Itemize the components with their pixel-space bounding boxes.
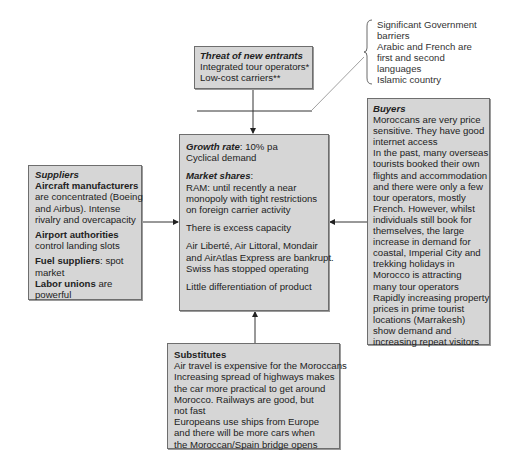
buyers-line: tourists booked their own <box>373 158 484 169</box>
buyers-line: Morocco is attracting <box>373 269 484 280</box>
barrier-line: Arabic and French are <box>377 41 477 52</box>
buyers-line: Rapidly increasing property <box>373 292 484 303</box>
buyers-line: French. However, whilst <box>373 203 484 214</box>
fuel-label: Fuel suppliers <box>35 255 100 266</box>
barrier-line: languages <box>377 63 477 74</box>
buyers-line: internet access <box>373 136 484 147</box>
labor-unions: Labor unions are <box>35 278 135 289</box>
buyers-line: In the past, many overseas <box>373 147 484 158</box>
brace-icon <box>364 20 372 84</box>
substitutes-line: the Moroccan/Spain bridge opens <box>174 439 333 450</box>
ram-line: on foreign carrier activity <box>186 204 322 215</box>
buyers-line: increase in demand for <box>373 236 484 247</box>
aircraft-line: are concentrated (Boeing <box>35 191 135 202</box>
buyers-line: prices in prime tourist <box>373 303 484 314</box>
bankrupt-line: and AirAtlas Express are bankrupt. <box>186 252 322 263</box>
airport-line: control landing slots <box>35 240 135 251</box>
buyers-line: Moroccans are very price <box>373 114 484 125</box>
suppliers-title: Suppliers <box>35 169 135 180</box>
aircraft-line: and Airbus). Intense <box>35 203 135 214</box>
barrier-line: barriers <box>377 30 477 41</box>
growth-rate-value: : 10% pa <box>240 141 278 152</box>
substitutes-line: and there will be more cars when <box>174 427 333 438</box>
market-shares-label: Market shares <box>186 170 251 181</box>
substitutes-line: Morocco. Railways are good, but <box>174 394 333 405</box>
growth-rate: Growth rate: 10% pa <box>186 141 322 152</box>
market-shares: Market shares: <box>186 170 322 181</box>
barrier-line: Significant Government <box>377 19 477 30</box>
suppliers-box: Suppliers Aircraft manufacturers are con… <box>28 165 142 300</box>
aircraft-line: rivalry and overcapacity <box>35 214 135 225</box>
substitutes-line: Air travel is expensive for the Moroccan… <box>174 360 333 371</box>
threat-of-new-entrants-box: Threat of new entrants Integrated tour o… <box>194 46 313 89</box>
ram-line: monopoly with tight restrictions <box>186 193 322 204</box>
barrier-line: first and second <box>377 52 477 63</box>
buyers-line: themselves, the large <box>373 225 484 236</box>
buyers-line: show demand and <box>373 325 484 336</box>
buyers-box: Buyers Moroccans are very price sensitiv… <box>367 98 490 345</box>
buyers-line: many tour operators <box>373 281 484 292</box>
buyers-title: Buyers <box>373 103 484 114</box>
buyers-line: flights and accommodation <box>373 170 484 181</box>
substitutes-line: not fast <box>174 405 333 416</box>
airport-label: Airport authorities <box>35 229 135 240</box>
substitutes-line: the car more practical to get around <box>174 383 333 394</box>
buyers-line: trekking holidays in <box>373 258 484 269</box>
buyers-line: locations (Marrakesh) <box>373 314 484 325</box>
barriers-note: Significant Government barriers Arabic a… <box>377 19 477 85</box>
labor-label: Labor unions <box>35 278 96 289</box>
buyers-line: coastal, Imperial City and <box>373 247 484 258</box>
buyers-line: increasing repeat visitors <box>373 336 484 347</box>
buyers-line: and there were only a few <box>373 181 484 192</box>
buyers-line: tour operators, mostly <box>373 192 484 203</box>
aircraft-label: Aircraft manufacturers <box>35 180 135 191</box>
ram-line: RAM: until recently a near <box>186 182 322 193</box>
threat-title: Threat of new entrants <box>200 50 307 61</box>
fuel-line: market <box>35 267 135 278</box>
industry-rivalry-box: Growth rate: 10% pa Cyclical demand Mark… <box>179 134 329 311</box>
growth-rate-label: Growth rate <box>186 141 240 152</box>
barrier-line: Islamic country <box>377 74 477 85</box>
demand-text: Cyclical demand <box>186 152 322 163</box>
buyers-line: individuals still book for <box>373 214 484 225</box>
threat-line: Integrated tour operators* <box>200 61 307 72</box>
fuel-suppliers: Fuel suppliers: spot <box>35 255 135 266</box>
buyers-line: sensitive. They have good <box>373 125 484 136</box>
substitutes-line: Increasing spread of highways makes <box>174 371 333 382</box>
differentiation-text: Little differentiation of product <box>186 281 322 292</box>
threat-line: Low-cost carriers** <box>200 72 307 83</box>
substitutes-box: Substitutes Air travel is expensive for … <box>167 343 340 449</box>
substitutes-line: Europeans use ships from Europe <box>174 416 333 427</box>
bankrupt-line: Swiss has stopped operating <box>186 263 322 274</box>
substitutes-title: Substitutes <box>174 349 333 360</box>
bankrupt-line: Air Liberté, Air Littoral, Mondair <box>186 240 322 251</box>
capacity-text: There is excess capacity <box>186 222 322 233</box>
labor-line: powerful <box>35 289 135 300</box>
